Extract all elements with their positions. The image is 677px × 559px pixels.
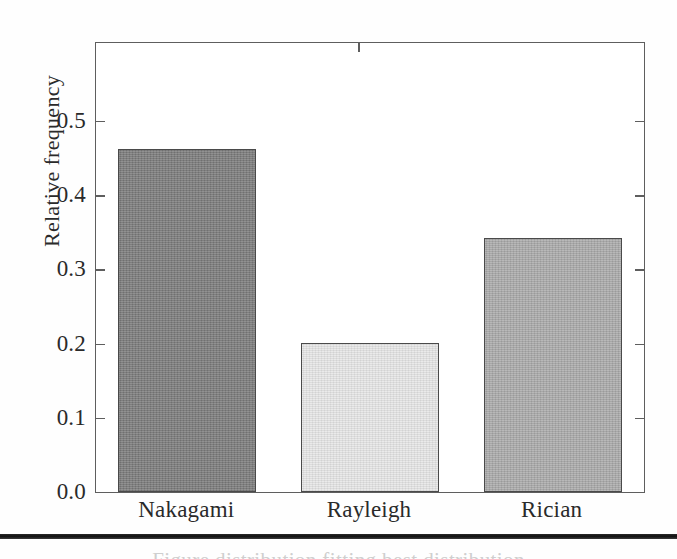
- y-tick-label-4: 0.4: [57, 183, 86, 206]
- bars-layer: [96, 43, 644, 492]
- y-tick-label-2: 0.2: [57, 331, 86, 354]
- y-tick-label-5: 0.5: [57, 108, 86, 131]
- y-tick-label-0: 0.0: [57, 480, 86, 503]
- caption-text-clipped: Figure distribution fitting best distrib…: [0, 548, 677, 559]
- y-tick-label-1: 0.1: [57, 405, 86, 428]
- x-tick-label-nakagami: Nakagami: [138, 497, 234, 522]
- y-axis-tick-labels: 0.0 0.1 0.2 0.3 0.4 0.5: [0, 42, 86, 493]
- bar-rayleigh[interactable]: [301, 343, 439, 492]
- plot-area: [95, 42, 645, 493]
- bar-nakagami[interactable]: [118, 149, 256, 492]
- x-axis-tick-labels: Nakagami Rayleigh Rician: [95, 497, 645, 531]
- figure-container: Relative frequency 0.0 0.1 0.2 0.3 0.4 0…: [0, 0, 677, 559]
- page-horizontal-rule: [0, 534, 677, 539]
- x-tick-label-rayleigh: Rayleigh: [327, 497, 412, 522]
- bar-rician[interactable]: [484, 238, 622, 492]
- x-tick-label-rician: Rician: [521, 497, 582, 522]
- y-tick-label-3: 0.3: [57, 257, 86, 280]
